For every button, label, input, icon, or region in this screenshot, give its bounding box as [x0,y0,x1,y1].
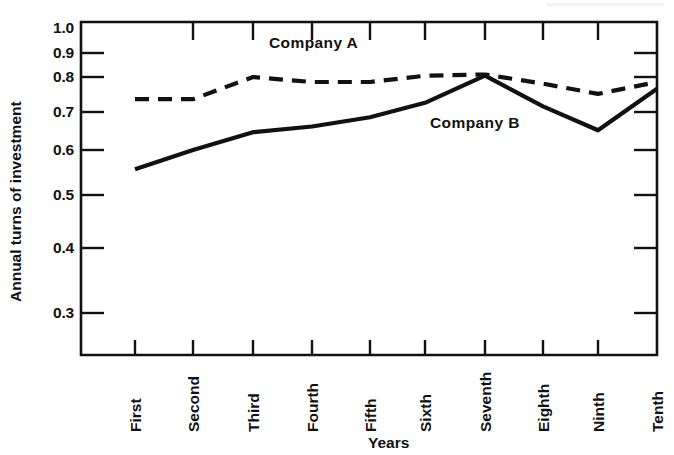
series-annotation-company-a: Company A [269,35,358,51]
xtick-label-fifth: Fifth [363,398,379,432]
axes-frame [81,22,657,355]
chart-figure: 1.0 0.9 0.8 0.7 0.6 0.5 0.4 0.3 Annual t… [0,0,674,455]
ytick-label-0-7: 0.7 [30,104,74,120]
xtick-label-third: Third [246,393,262,432]
series-line-company-a [135,75,657,100]
xtick-label-eighth: Eighth [536,384,552,432]
xtick-label-tenth: Tenth [650,391,666,432]
ytick-label-0-5: 0.5 [30,187,74,203]
x-axis-ticks [135,340,598,355]
xtick-label-fourth: Fourth [305,383,321,432]
x-axis-title: Years [368,435,409,451]
ytick-label-1-0: 1.0 [30,20,74,36]
ytick-label-0-6: 0.6 [30,142,74,158]
y-axis-title: Annual turns of investment [8,101,24,302]
xtick-label-ninth: Ninth [591,392,607,432]
ytick-label-0-8: 0.8 [30,69,74,85]
xtick-label-seventh: Seventh [478,372,494,432]
xtick-label-sixth: Sixth [418,394,434,432]
line-chart-plot [0,0,674,455]
xtick-label-first: First [128,398,144,432]
ytick-label-0-3: 0.3 [30,305,74,321]
x-axis-ticks-top [193,22,598,40]
xtick-label-second: Second [186,376,202,432]
y-axis-ticks [81,53,104,313]
ytick-label-0-9: 0.9 [30,45,74,61]
scan-artifact [546,3,664,6]
series-annotation-company-b: Company B [430,115,520,131]
ytick-label-0-4: 0.4 [30,240,74,256]
